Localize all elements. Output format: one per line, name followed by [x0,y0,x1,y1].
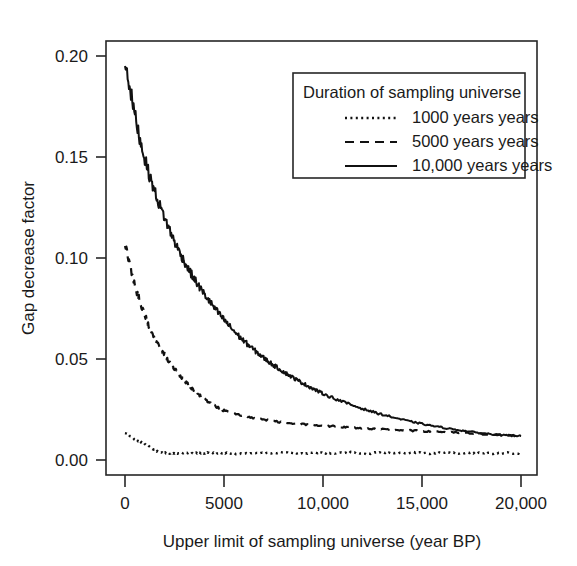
x-axis-ticks: 0500010,00015,00020,000 [120,475,547,513]
x-axis-title: Upper limit of sampling universe (year B… [163,532,481,551]
legend-label-3: 10,000 years years [412,156,552,174]
y-tick-label: 0.10 [55,249,88,268]
y-tick-label: 0.15 [55,148,88,167]
legend-title: Duration of sampling universe [303,83,521,101]
legend-label-2: 5000 years years [412,132,539,150]
x-tick-label: 5000 [205,494,243,513]
series-line-2 [125,246,521,436]
y-axis-ticks: 0.000.050.100.150.20 [55,47,106,470]
x-tick-label: 20,000 [495,494,547,513]
x-tick-label: 15,000 [396,494,448,513]
x-tick-label: 0 [120,494,129,513]
y-tick-label: 0.05 [55,350,88,369]
chart-figure: 0.000.050.100.150.20 0500010,00015,00020… [0,0,577,566]
chart-legend: Duration of sampling universe 1000 years… [293,73,552,178]
legend-label-1: 1000 years years [412,108,539,126]
y-tick-label: 0.00 [55,451,88,470]
x-tick-label: 10,000 [297,494,349,513]
series-line-1 [125,433,521,454]
y-tick-label: 0.20 [55,47,88,66]
y-axis-title: Gap decrease factor [19,181,38,335]
chart-canvas: 0.000.050.100.150.20 0500010,00015,00020… [0,0,577,566]
